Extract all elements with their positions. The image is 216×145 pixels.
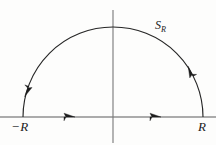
right-endpoint-label: R [198,120,206,133]
arc-label: SR [155,19,166,35]
arc-direction-arrow-right [185,65,197,78]
axis-direction-arrow-right [150,113,161,121]
contour-figure: −R R SR [0,0,216,145]
arc-direction-arrow-left [21,85,32,98]
contour-diagram-svg [0,0,216,145]
left-endpoint-label: −R [11,120,29,133]
axis-direction-arrow-left [64,113,75,121]
arc-label-subscript: R [161,25,166,34]
